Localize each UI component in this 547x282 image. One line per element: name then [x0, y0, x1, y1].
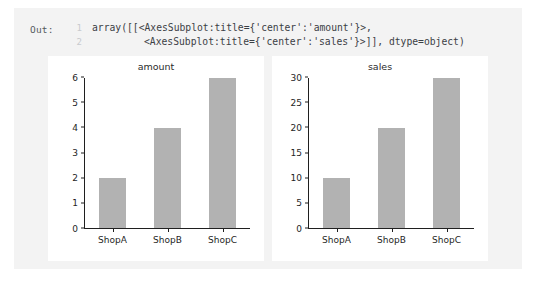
- y-axis-tick-label: 3: [72, 148, 78, 158]
- line-number: 2: [66, 35, 82, 49]
- repr-line: 1 array([[<AxesSubplot:title={'center':'…: [66, 21, 518, 35]
- y-axis-tick: 1: [81, 202, 84, 203]
- bar: [323, 178, 351, 228]
- y-axis-tick-label: 10: [291, 173, 302, 183]
- bar-slot: ShopB: [364, 78, 419, 228]
- x-axis-tick-label: ShopB: [377, 235, 406, 245]
- x-axis-tick-label: ShopB: [153, 235, 182, 245]
- y-axis-tick: 0: [305, 228, 308, 229]
- bar-slot: ShopC: [419, 78, 474, 228]
- bar-slot: ShopB: [140, 78, 195, 228]
- repr-text-block: 1 array([[<AxesSubplot:title={'center':'…: [66, 21, 518, 55]
- bar-group-amount: ShopAShopBShopC: [85, 78, 250, 228]
- repr-line-text: <AxesSubplot:title={'center':'sales'}>]]…: [92, 35, 465, 49]
- bar-group-sales: ShopAShopBShopC: [309, 78, 474, 228]
- y-axis-tick: 3: [81, 152, 84, 153]
- subplot-title: amount: [48, 61, 264, 72]
- y-axis-tick-label: 30: [291, 72, 302, 82]
- y-axis-tick: 4: [81, 127, 84, 128]
- plot-area-sales: 051015202530 ShopAShopBShopC: [308, 78, 474, 229]
- bar-slot: ShopA: [309, 78, 364, 228]
- y-axis-tick: 6: [81, 77, 84, 78]
- bar: [99, 178, 127, 228]
- bar-slot: ShopA: [85, 78, 140, 228]
- y-axis-tick-label: 20: [291, 122, 302, 132]
- y-axis-tick-label: 0: [72, 223, 78, 233]
- bar-slot: ShopC: [195, 78, 250, 228]
- y-axis-tick-label: 5: [296, 198, 302, 208]
- x-axis-tick: [168, 229, 169, 232]
- x-axis-tick: [447, 229, 448, 232]
- subplot-amount: amount 0123456 ShopAShopBShopC: [48, 56, 264, 261]
- y-axis-tick: 5: [81, 102, 84, 103]
- x-axis-tick: [337, 229, 338, 232]
- subplot-sales: sales 051015202530 ShopAShopBShopC: [272, 56, 488, 261]
- x-axis-tick-label: ShopC: [432, 235, 461, 245]
- y-axis-tick-label: 6: [72, 72, 78, 82]
- x-axis-tick: [223, 229, 224, 232]
- y-axis-tick: 15: [305, 152, 308, 153]
- x-axis-tick: [392, 229, 393, 232]
- y-axis-tick-label: 15: [291, 148, 302, 158]
- bar: [378, 128, 406, 228]
- subplot-title: sales: [272, 61, 488, 72]
- x-axis-tick-label: ShopA: [322, 235, 351, 245]
- output-prompt-label: Out:: [30, 24, 54, 35]
- repr-line-text: array([[<AxesSubplot:title={'center':'am…: [92, 21, 372, 35]
- y-axis-tick: 20: [305, 127, 308, 128]
- y-axis-tick-label: 0: [296, 223, 302, 233]
- y-axis-tick: 0: [81, 228, 84, 229]
- bar: [433, 78, 461, 228]
- y-axis-tick-label: 5: [72, 97, 78, 107]
- figure-row: amount 0123456 ShopAShopBShopC sales 051…: [48, 56, 488, 261]
- x-axis-tick-label: ShopC: [208, 235, 237, 245]
- y-axis-tick: 10: [305, 177, 308, 178]
- y-axis-tick-label: 25: [291, 97, 302, 107]
- output-cell-panel: Out: 1 array([[<AxesSubplot:title={'cent…: [14, 8, 522, 269]
- y-axis-tick: 5: [305, 202, 308, 203]
- y-axis-tick-label: 4: [72, 122, 78, 132]
- y-axis-tick: 2: [81, 177, 84, 178]
- plot-area-amount: 0123456 ShopAShopBShopC: [84, 78, 250, 229]
- y-axis-tick: 25: [305, 102, 308, 103]
- x-axis-tick-label: ShopA: [98, 235, 127, 245]
- y-axis-tick-label: 1: [72, 198, 78, 208]
- bar: [154, 128, 182, 228]
- bar: [209, 78, 237, 228]
- line-number: 1: [66, 21, 82, 35]
- y-axis-tick-label: 2: [72, 173, 78, 183]
- x-axis-tick: [113, 229, 114, 232]
- y-axis-tick: 30: [305, 77, 308, 78]
- repr-line: 2 <AxesSubplot:title={'center':'sales'}>…: [66, 35, 518, 49]
- notebook-output-screen: Out: 1 array([[<AxesSubplot:title={'cent…: [0, 0, 547, 282]
